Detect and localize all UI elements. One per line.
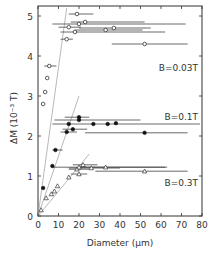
point-b003t bbox=[104, 28, 108, 32]
x-axis-label: Diameter (μm) bbox=[87, 238, 153, 248]
x-tick-label: 70 bbox=[176, 220, 188, 230]
y-tick-label: 4 bbox=[27, 52, 33, 62]
point-b01t bbox=[77, 115, 81, 119]
point-b003t bbox=[75, 12, 79, 16]
point-b003t bbox=[45, 76, 49, 80]
x-tick-label: 30 bbox=[94, 220, 106, 230]
point-b003t bbox=[67, 25, 71, 29]
point-b03t bbox=[52, 189, 56, 193]
y-tick-label: 3 bbox=[27, 92, 33, 102]
point-b01t bbox=[65, 130, 69, 134]
x-tick-label: 0 bbox=[35, 220, 41, 230]
y-tick-label: 5 bbox=[27, 12, 33, 22]
chart: 01020304050607080 012345 Diameter (μm) Δ… bbox=[0, 0, 219, 258]
point-b003t bbox=[47, 64, 51, 68]
point-b01t bbox=[106, 122, 110, 126]
point-b01t bbox=[71, 127, 75, 131]
x-tick-label: 80 bbox=[196, 220, 208, 230]
annotation-b-01t: B=0.1T bbox=[164, 112, 198, 122]
x-tick-label: 20 bbox=[73, 220, 85, 230]
point-b003t bbox=[143, 42, 147, 46]
y-tick-label: 1 bbox=[27, 172, 33, 182]
point-b003t bbox=[112, 26, 116, 30]
x-tick-label: 50 bbox=[135, 220, 147, 230]
point-b03t bbox=[55, 184, 59, 188]
point-b01t bbox=[51, 164, 55, 168]
point-b003t bbox=[83, 20, 87, 24]
point-b01t bbox=[143, 131, 147, 135]
y-tick-label: 0 bbox=[27, 212, 33, 222]
point-b03t bbox=[39, 208, 43, 212]
x-tick-label: 10 bbox=[53, 220, 65, 230]
y-tick-label: 2 bbox=[27, 132, 33, 142]
x-tick-label: 60 bbox=[155, 220, 167, 230]
fit-line bbox=[38, 154, 89, 216]
point-b01t bbox=[114, 121, 118, 125]
point-b003t bbox=[43, 90, 47, 94]
point-b01t bbox=[54, 148, 58, 152]
annotation-b-03t: B=0.3T bbox=[164, 178, 198, 188]
point-b003t bbox=[73, 30, 77, 34]
annotation-b-003t: B=0.03T bbox=[159, 63, 199, 73]
y-axis-label: ΔM (10⁻³ T) bbox=[9, 92, 19, 144]
point-b003t bbox=[77, 22, 81, 26]
point-b01t bbox=[41, 186, 45, 190]
point-b003t bbox=[41, 102, 45, 106]
point-b01t bbox=[67, 122, 71, 126]
fit-line bbox=[38, 96, 79, 216]
point-b01t bbox=[92, 122, 96, 126]
point-b003t bbox=[65, 37, 69, 41]
x-tick-label: 40 bbox=[114, 220, 126, 230]
data-points bbox=[39, 12, 147, 212]
